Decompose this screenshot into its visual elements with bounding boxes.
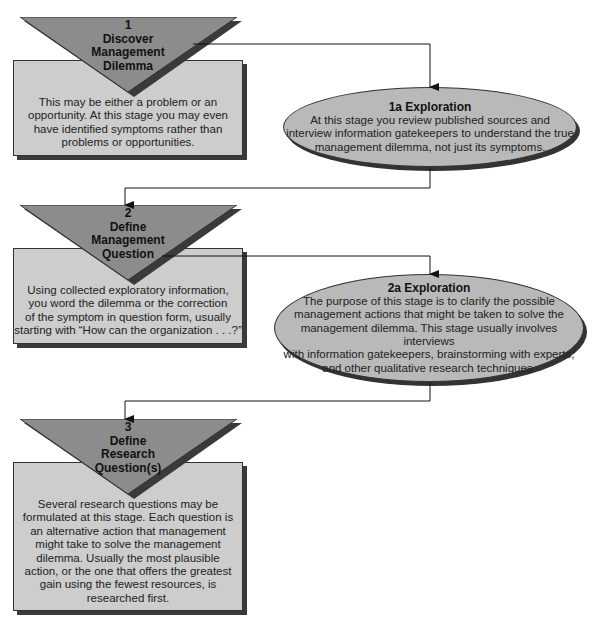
- exploration-1a-body-line: management dilemma, not just its symptom…: [315, 141, 546, 154]
- step-3-number: 3: [18, 421, 238, 435]
- exploration-2a-body-line: management dilemma. This stage usually i…: [274, 322, 584, 349]
- step-2-description-line: Using collected exploratory information,: [14, 284, 242, 297]
- step-2-description-line: you word the dilemma or the correction: [14, 297, 242, 310]
- step-2-title-line: Define: [18, 221, 238, 235]
- exploration-1a-ellipse: 1a Exploration At this stage you review …: [283, 87, 577, 167]
- step-1-description-line: problems or opportunities.: [14, 136, 242, 149]
- step-1-title-line: Discover: [18, 33, 238, 47]
- connector-2a-to-3: [125, 383, 430, 419]
- step-2-title-line: Question: [18, 248, 238, 262]
- step-1-description-line: This may be either a problem or an: [14, 96, 242, 109]
- step-3-description-line: formulated at this stage. Each question …: [14, 511, 242, 524]
- exploration-2a-title: 2a Exploration: [388, 281, 471, 295]
- step-1-number: 1: [18, 19, 238, 33]
- step-3-description-line: researched first.: [14, 592, 242, 605]
- step-3-title-line: Research: [18, 448, 238, 462]
- exploration-2a-ellipse: 2a Exploration The purpose of this stage…: [274, 274, 584, 382]
- step-2-title-line: Management: [18, 234, 238, 248]
- step-1-description-line: opportunity. At this stage you may even: [14, 109, 242, 122]
- step-2-triangle: 2 Define Management Question: [18, 205, 242, 285]
- step-3-description-line: might take to solve the management: [14, 538, 242, 551]
- step-3-triangle: 3 Define Research Question(s): [18, 419, 242, 499]
- exploration-1a-title: 1a Exploration: [389, 100, 472, 114]
- step-2-number: 2: [18, 207, 238, 221]
- exploration-2a-body-line: and other qualitative research technique…: [322, 362, 536, 375]
- step-2-description-line: of the symptom in question form, usually: [14, 311, 242, 324]
- step-1-title-line: Dilemma: [18, 60, 238, 74]
- step-3-description-line: gain using the fewest resources, is: [14, 578, 242, 591]
- exploration-1a-body-line: interview information gatekeepers to und…: [286, 127, 574, 140]
- step-3-description-line: an alternative action that management: [14, 525, 242, 538]
- exploration-2a-body-line: with information gatekeepers, brainstorm…: [284, 348, 575, 361]
- step-1-description-line: have identified symptoms rather than: [14, 123, 242, 136]
- exploration-2a-body-line: management actions that might be taken t…: [294, 308, 564, 321]
- step-1-title-line: Management: [18, 46, 238, 60]
- step-3-description-line: dilemma. Usually the most plausible: [14, 552, 242, 565]
- step-3-title-line: Question(s): [18, 462, 238, 476]
- step-2-description-line: starting with “How can the organization …: [14, 324, 242, 337]
- step-3-description-line: action, or the one that offers the great…: [14, 565, 242, 578]
- step-3-title-line: Define: [18, 435, 238, 449]
- exploration-1a-body-line: At this stage you review published sourc…: [310, 114, 550, 127]
- connector-1a-to-2: [125, 168, 430, 205]
- step-3-description-line: Several research questions may be: [14, 498, 242, 511]
- step-1-triangle: 1 Discover Management Dilemma: [18, 17, 242, 97]
- exploration-2a-body-line: The purpose of this stage is to clarify …: [303, 295, 555, 308]
